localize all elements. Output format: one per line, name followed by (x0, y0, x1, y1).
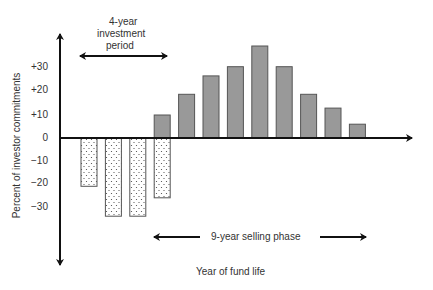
selling-bar-year-11 (325, 108, 341, 138)
selling-bar-year-12 (349, 124, 365, 138)
y-tick-0: 0 (18, 132, 48, 143)
bars-group (81, 46, 365, 216)
x-axis-label: Year of fund life (196, 266, 265, 277)
y-tick-20: +20 (18, 84, 48, 95)
selling-bar-year-10 (301, 94, 317, 138)
y-tick-10: +10 (18, 109, 48, 120)
y-tick-neg20: −20 (18, 177, 48, 188)
investment-bar-year-3 (130, 138, 146, 216)
selling-bar-year-4 (154, 115, 170, 138)
investment-bar-year-2 (105, 138, 121, 216)
selling-bar-year-8 (252, 46, 268, 138)
selling-bar-year-5 (179, 94, 195, 138)
investment-label-line1: 4-year (109, 16, 137, 27)
y-tick-30: +30 (18, 61, 48, 72)
selling-phase-label: 9-year selling phase (211, 231, 301, 242)
y-tick-neg10: −10 (18, 155, 48, 166)
chart-canvas (0, 0, 433, 290)
selling-bar-year-7 (227, 67, 243, 138)
investment-label-line2: investment (97, 28, 145, 39)
selling-bar-year-6 (203, 76, 219, 138)
investment-bar-year-4 (154, 138, 170, 198)
y-tick-neg30: −30 (18, 201, 48, 212)
investment-label-line3: period (106, 40, 134, 51)
investment-bar-year-1 (81, 138, 97, 186)
selling-bar-year-9 (276, 67, 292, 138)
